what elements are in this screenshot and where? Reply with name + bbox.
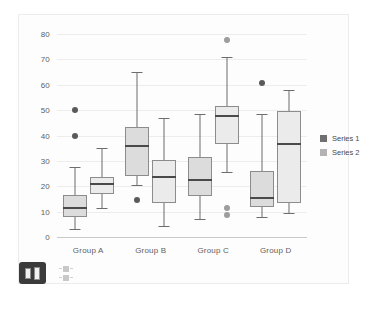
box-rect (188, 157, 212, 196)
y-axis-tick-10: 10 (41, 207, 50, 216)
whisker-cap-upper (132, 72, 143, 73)
y-axis-tick-40: 40 (41, 131, 50, 140)
chart-screen: 01020304050607080Group AGroup BGroup CGr… (0, 0, 367, 315)
whisker-lower (226, 144, 227, 172)
whisker-upper (101, 148, 102, 177)
y-axis-tick-50: 50 (41, 106, 50, 115)
whisker-cap-lower (194, 219, 205, 220)
box-group-d-series-1[interactable] (250, 34, 274, 237)
box-group-a-series-2[interactable] (90, 34, 114, 237)
box-rect (250, 171, 274, 207)
whisker-cap-upper (257, 114, 268, 115)
whisker-cap-upper (159, 118, 170, 119)
box-rect (125, 127, 149, 176)
box-group-d-series-2[interactable] (277, 34, 301, 237)
y-axis-tick-0: 0 (45, 233, 50, 242)
outlier-point-1[interactable] (72, 107, 78, 113)
chart-toolbar (19, 262, 73, 284)
outlier-point-2[interactable] (72, 133, 78, 139)
legend-label-series-1: Series 1 (332, 134, 360, 143)
whisker-cap-lower (96, 208, 107, 209)
box-group-c-series-1[interactable] (188, 34, 212, 237)
whisker-upper (262, 114, 263, 171)
series-2-marker-tick-left (59, 277, 62, 278)
whisker-cap-lower (159, 226, 170, 227)
median-line (63, 207, 87, 209)
whisker-cap-upper (194, 114, 205, 115)
whisker-lower (199, 196, 200, 219)
box-group-a-series-1[interactable] (63, 34, 87, 237)
legend-item-series-2[interactable]: Series 2 (320, 148, 360, 157)
whisker-upper (164, 118, 165, 160)
whisker-cap-lower (284, 213, 295, 214)
legend-item-series-1[interactable]: Series 1 (320, 134, 360, 143)
bar-chart-icon-bar-1 (25, 268, 31, 279)
y-axis-tick-30: 30 (41, 156, 50, 165)
outlier-point-1[interactable] (134, 197, 140, 203)
outlier-point-1[interactable] (259, 80, 265, 86)
whisker-cap-upper (69, 167, 80, 168)
median-line (125, 145, 149, 147)
series-2-marker-dot (63, 275, 69, 281)
box-group-c-series-2[interactable] (215, 34, 239, 237)
whisker-upper (199, 114, 200, 157)
boxplot-chart-card: 01020304050607080Group AGroup BGroup CGr… (18, 14, 349, 284)
x-axis-tick-group-d: Group D (260, 246, 292, 255)
whisker-upper (137, 72, 138, 127)
whisker-cap-upper (221, 57, 232, 58)
box-group-b-series-2[interactable] (152, 34, 176, 237)
outlier-point-3[interactable] (224, 212, 230, 218)
box-rect (215, 106, 239, 144)
whisker-upper (289, 90, 290, 112)
whisker-lower (262, 207, 263, 217)
box-rect (277, 111, 301, 202)
y-axis-tick-70: 70 (41, 55, 50, 64)
y-axis-tick-80: 80 (41, 30, 50, 39)
series-2-marker (59, 275, 73, 281)
whisker-lower (101, 194, 102, 208)
median-line (215, 115, 239, 117)
x-axis-tick-group-c: Group C (197, 246, 229, 255)
series-1-marker-dot (63, 266, 69, 272)
y-axis-tick-20: 20 (41, 182, 50, 191)
box-rect (152, 160, 176, 203)
whisker-cap-upper (96, 148, 107, 149)
mini-legend (59, 266, 73, 281)
median-line (188, 179, 212, 181)
series-1-marker-tick-right (70, 268, 73, 269)
median-line (152, 176, 176, 178)
legend-swatch-series-2 (320, 149, 327, 156)
whisker-cap-lower (221, 172, 232, 173)
median-line (277, 143, 301, 145)
y-axis-tick-60: 60 (41, 80, 50, 89)
bar-chart-icon[interactable] (19, 262, 46, 284)
x-axis-tick-group-a: Group A (73, 246, 104, 255)
gridline-0 (57, 237, 307, 238)
whisker-cap-lower (257, 217, 268, 218)
whisker-lower (289, 203, 290, 213)
legend-swatch-series-1 (320, 135, 327, 142)
legend-label-series-2: Series 2 (332, 148, 360, 157)
x-axis-tick-group-b: Group B (135, 246, 166, 255)
whisker-upper (226, 57, 227, 106)
box-group-b-series-1[interactable] (125, 34, 149, 237)
plot-area: 01020304050607080Group AGroup BGroup CGr… (57, 34, 307, 237)
chart-legend: Series 1 Series 2 (320, 134, 360, 162)
median-line (250, 197, 274, 199)
median-line (90, 183, 114, 185)
whisker-lower (137, 176, 138, 185)
whisker-cap-upper (284, 90, 295, 91)
outlier-point-1[interactable] (224, 37, 230, 43)
series-2-marker-tick-right (70, 277, 73, 278)
box-rect (90, 177, 114, 193)
outlier-point-2[interactable] (224, 205, 230, 211)
whisker-upper (74, 167, 75, 195)
whisker-lower (164, 203, 165, 226)
whisker-cap-lower (132, 185, 143, 186)
whisker-cap-lower (69, 229, 80, 230)
bar-chart-icon-bar-2 (34, 267, 40, 280)
whisker-lower (74, 217, 75, 230)
series-1-marker (59, 266, 73, 272)
series-1-marker-tick-left (59, 268, 62, 269)
